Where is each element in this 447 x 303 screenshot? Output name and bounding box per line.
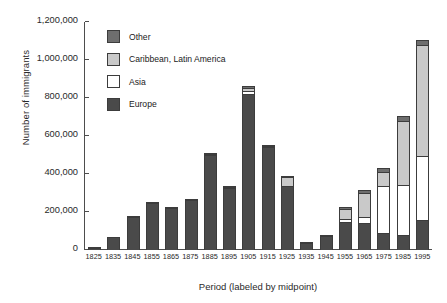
- legend-swatch-other: [107, 30, 120, 43]
- bar-segment-carib[interactable]: [377, 172, 390, 187]
- legend-swatch-europe: [107, 98, 120, 111]
- x-axis-tick-label: 1995: [413, 252, 432, 261]
- stacked-bar[interactable]: [185, 199, 198, 249]
- legend-label: Other: [129, 32, 151, 42]
- y-axis-tick-label: 0: [73, 243, 78, 253]
- bar-column[interactable]: [336, 22, 355, 249]
- bar-segment-europe[interactable]: [262, 147, 275, 250]
- x-axis-tick-label: 1975: [374, 252, 393, 261]
- y-axis-tick-label: 1,000,000: [37, 53, 78, 63]
- x-axis-tick-label: 1835: [103, 252, 122, 261]
- bar-segment-europe[interactable]: [339, 222, 352, 251]
- y-axis-tick-label: 1,200,000: [37, 15, 78, 25]
- stacked-bar[interactable]: [397, 116, 410, 249]
- stacked-bar[interactable]: [262, 145, 275, 249]
- stacked-bar[interactable]: [416, 40, 429, 249]
- bar-column[interactable]: [278, 22, 297, 249]
- x-axis-tick-label: 1895: [219, 252, 238, 261]
- bar-column[interactable]: [316, 22, 335, 249]
- legend-label: Asia: [129, 77, 146, 87]
- stacked-bar[interactable]: [281, 176, 294, 249]
- bar-segment-asia[interactable]: [416, 156, 429, 221]
- x-axis-title: Period (labeled by midpoint): [84, 281, 432, 292]
- bar-segment-europe[interactable]: [397, 235, 410, 250]
- stacked-bar[interactable]: [146, 202, 159, 249]
- bar-segment-europe[interactable]: [223, 188, 236, 250]
- bar-segment-europe[interactable]: [204, 155, 217, 250]
- legend-item[interactable]: Europe: [107, 98, 226, 111]
- bar-segment-europe[interactable]: [416, 220, 429, 250]
- bar-segment-europe[interactable]: [88, 248, 101, 250]
- bar-segment-europe[interactable]: [242, 94, 255, 250]
- x-axis-tick-label: 1885: [200, 252, 219, 261]
- bar-segment-carib[interactable]: [358, 193, 371, 218]
- bar-segment-europe[interactable]: [281, 186, 294, 250]
- y-axis-tick-label: 600,000: [44, 129, 78, 139]
- y-axis-tick-label: 400,000: [44, 167, 78, 177]
- bar-column[interactable]: [355, 22, 374, 249]
- x-axis-tick-label: 1985: [393, 252, 412, 261]
- bar-column[interactable]: [297, 22, 316, 249]
- bar-column[interactable]: [259, 22, 278, 249]
- bar-segment-europe[interactable]: [300, 243, 313, 250]
- x-axis-ticks: 1825183518451855186518751885189519051915…: [84, 252, 432, 261]
- bar-column[interactable]: [413, 22, 432, 249]
- bar-segment-europe[interactable]: [377, 233, 390, 250]
- legend-label: Caribbean, Latin America: [129, 54, 226, 64]
- bar-segment-europe[interactable]: [185, 200, 198, 250]
- bar-segment-europe[interactable]: [146, 203, 159, 251]
- bar-segment-carib[interactable]: [397, 121, 410, 186]
- immigration-stacked-bar-chart: Number of immigrants 0200,000400,000600,…: [0, 0, 447, 303]
- stacked-bar[interactable]: [242, 86, 255, 249]
- x-axis-tick-label: 1825: [84, 252, 103, 261]
- y-axis-tick-label: 200,000: [44, 205, 78, 215]
- chart-legend: OtherCaribbean, Latin AmericaAsiaEurope: [107, 30, 226, 120]
- bar-column[interactable]: [239, 22, 258, 249]
- x-axis-tick-label: 1865: [161, 252, 180, 261]
- bar-segment-europe[interactable]: [107, 237, 120, 250]
- x-axis-tick-label: 1845: [123, 252, 142, 261]
- x-axis-tick-label: 1875: [181, 252, 200, 261]
- stacked-bar[interactable]: [204, 153, 217, 249]
- y-axis-tick-label: 800,000: [44, 91, 78, 101]
- bar-segment-europe[interactable]: [165, 208, 178, 250]
- legend-swatch-carib: [107, 53, 120, 66]
- x-axis-tick-label: 1925: [277, 252, 296, 261]
- x-axis-tick-label: 1935: [297, 252, 316, 261]
- bar-column[interactable]: [85, 22, 104, 249]
- x-axis-tick-label: 1855: [142, 252, 161, 261]
- legend-label: Europe: [129, 99, 157, 109]
- bar-segment-carib[interactable]: [416, 45, 429, 157]
- stacked-bar[interactable]: [127, 216, 140, 249]
- stacked-bar[interactable]: [358, 190, 371, 249]
- x-axis-tick-label: 1965: [355, 252, 374, 261]
- bar-segment-europe[interactable]: [358, 223, 371, 250]
- stacked-bar[interactable]: [339, 207, 352, 249]
- stacked-bar[interactable]: [320, 235, 333, 249]
- bar-segment-europe[interactable]: [127, 217, 140, 250]
- bar-segment-asia[interactable]: [397, 185, 410, 236]
- legend-item[interactable]: Asia: [107, 75, 226, 88]
- bar-segment-europe[interactable]: [320, 236, 333, 250]
- stacked-bar[interactable]: [377, 168, 390, 249]
- bar-segment-asia[interactable]: [377, 186, 390, 234]
- x-axis-tick-label: 1945: [316, 252, 335, 261]
- x-axis-tick-label: 1915: [258, 252, 277, 261]
- legend-item[interactable]: Other: [107, 30, 226, 43]
- bar-column[interactable]: [394, 22, 413, 249]
- x-axis-tick-label: 1905: [239, 252, 258, 261]
- y-axis-title: Number of immigrants: [20, 18, 31, 178]
- stacked-bar[interactable]: [107, 237, 120, 249]
- legend-swatch-asia: [107, 75, 120, 88]
- stacked-bar[interactable]: [223, 186, 236, 249]
- x-axis-tick-label: 1955: [335, 252, 354, 261]
- stacked-bar[interactable]: [88, 247, 101, 249]
- legend-item[interactable]: Caribbean, Latin America: [107, 53, 226, 66]
- stacked-bar[interactable]: [300, 242, 313, 249]
- bar-column[interactable]: [374, 22, 393, 249]
- stacked-bar[interactable]: [165, 207, 178, 249]
